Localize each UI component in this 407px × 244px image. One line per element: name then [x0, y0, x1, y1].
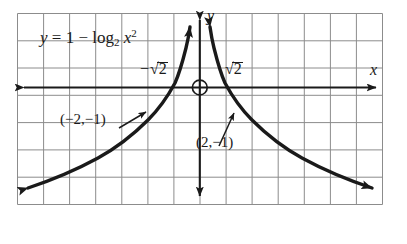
- figure-container: y = 1 − log2 x2 x y −√2 √2 (−2,−1) (2,−1…: [0, 0, 407, 244]
- equation-annotation: y = 1 − log2 x2: [40, 28, 137, 48]
- negative-root-sign: −: [140, 60, 149, 77]
- vinculum-negative: [157, 62, 168, 63]
- equation-log: log: [92, 28, 114, 47]
- point-label-left: (−2,−1): [60, 112, 106, 127]
- radical-sign-positive: √2: [224, 61, 242, 77]
- radical-sign-negative: √2: [149, 61, 167, 77]
- equation-lhs: y: [40, 28, 48, 47]
- equation-exponent: 2: [131, 27, 137, 39]
- equation-equals: =: [52, 28, 62, 47]
- equation-one: 1: [66, 28, 75, 47]
- x-axis-label: x: [370, 62, 377, 78]
- point-label-right: (2,−1): [196, 135, 233, 150]
- positive-root-label: √2: [224, 61, 242, 77]
- y-axis-label: y: [207, 8, 214, 24]
- vinculum-positive: [232, 62, 243, 63]
- negative-root-label: −√2: [140, 61, 167, 77]
- equation-minus: −: [78, 28, 88, 47]
- equation-log-base: 2: [114, 36, 120, 48]
